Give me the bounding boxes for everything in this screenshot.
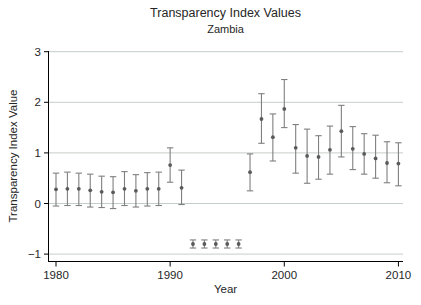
data-point: [77, 187, 81, 191]
data-point: [282, 107, 286, 111]
data-point: [180, 186, 184, 190]
data-point: [294, 146, 298, 150]
x-tick-label: 1980: [43, 269, 69, 281]
data-point: [88, 188, 92, 192]
data-point: [157, 187, 161, 191]
data-point: [100, 190, 104, 194]
x-tick-label: 2010: [386, 269, 412, 281]
data-point: [214, 242, 218, 246]
data-point: [168, 163, 172, 167]
data-point: [66, 187, 70, 191]
y-tick-label: 3: [35, 46, 41, 58]
axes: [48, 51, 403, 262]
data-point: [145, 187, 149, 191]
y-tick-label: 2: [35, 96, 41, 108]
data-points: [54, 107, 400, 246]
data-point: [305, 154, 309, 158]
error-bars: [53, 80, 402, 248]
data-point: [260, 117, 264, 121]
data-point: [225, 242, 229, 246]
data-point: [54, 187, 58, 191]
x-axis-ticks: 1980199020002010: [43, 262, 411, 282]
chart-canvas: 3210−11980199020002010: [0, 0, 421, 305]
data-point: [328, 148, 332, 152]
y-tick-label: 1: [35, 147, 41, 159]
figure-container: Transparency Index Values Zambia Transpa…: [0, 0, 421, 305]
data-point: [374, 157, 378, 161]
data-point: [317, 155, 321, 159]
y-tick-label: −1: [28, 248, 41, 260]
data-point: [385, 161, 389, 165]
data-point: [351, 147, 355, 151]
data-point: [202, 242, 206, 246]
y-tick-label: 0: [35, 198, 41, 210]
y-axis-ticks: 3210−1: [28, 46, 48, 260]
data-point: [339, 129, 343, 133]
data-point: [248, 170, 252, 174]
data-point: [111, 190, 115, 194]
x-tick-label: 2000: [271, 269, 297, 281]
data-point: [362, 152, 366, 156]
data-point: [397, 162, 401, 166]
data-point: [191, 242, 195, 246]
x-tick-label: 1990: [157, 269, 183, 281]
data-point: [237, 242, 241, 246]
data-point: [134, 189, 138, 193]
data-point: [271, 135, 275, 139]
gridlines: [48, 52, 403, 254]
data-point: [123, 187, 127, 191]
